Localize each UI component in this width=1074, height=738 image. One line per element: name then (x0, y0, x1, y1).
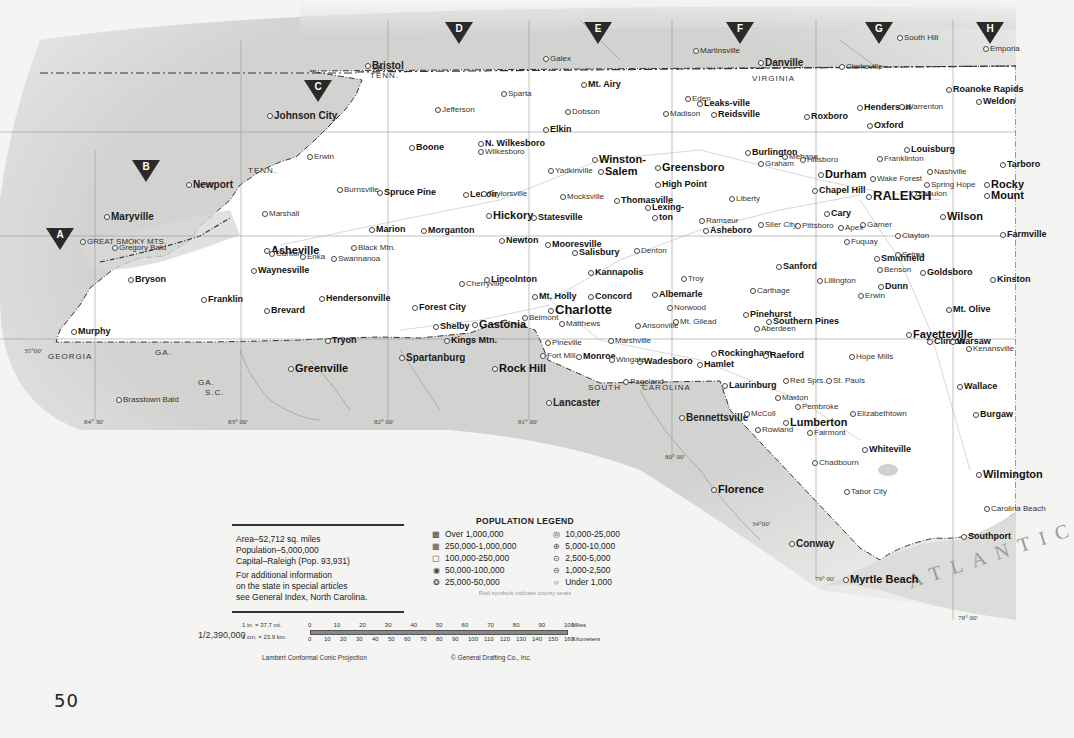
city-label: Pembroke (795, 403, 838, 411)
population-symbol-icon: ◉ (430, 565, 442, 576)
population-symbol-icon: ○ (550, 577, 562, 588)
city-label: Lillington (817, 277, 856, 285)
city-label: Goldsboro (920, 268, 973, 276)
city-dot-icon (745, 150, 751, 156)
legend-row: ▢100,000-250,000 (430, 553, 516, 564)
legend-label: Over 1,000,000 (445, 529, 504, 540)
city-label: Elkin (543, 125, 572, 133)
city-name: Franklin (208, 294, 243, 304)
city-dot-icon (540, 353, 546, 359)
city-label: Kenansville (966, 345, 1014, 353)
city-dot-icon (201, 297, 207, 303)
city-label: Conway (789, 540, 834, 548)
city-name: Jefferson (442, 105, 475, 114)
kilometer-tick: 50 (388, 636, 395, 642)
legend-label: 2,500-5,000 (565, 553, 610, 564)
grid-marker-label: G (873, 23, 885, 34)
city-label: Reidsville (711, 110, 760, 118)
legend-title: POPULATION LEGEND (430, 516, 620, 526)
city-dot-icon (920, 270, 926, 276)
city-dot-icon (976, 472, 982, 478)
city-dot-icon (826, 378, 832, 384)
city-label: Cary (824, 209, 851, 217)
city-name: Warrenton (906, 102, 943, 111)
city-name: Rowland (762, 425, 793, 434)
city-label: Salem (598, 167, 637, 175)
city-dot-icon (546, 400, 552, 406)
city-label: Martinsville (693, 47, 740, 55)
city-label: Troy (681, 275, 704, 283)
city-name: Sparta (508, 89, 532, 98)
city-label: Pinehurst (743, 310, 792, 318)
city-dot-icon (744, 411, 750, 417)
city-dot-icon (911, 191, 917, 197)
city-label: Cherryville (459, 280, 504, 288)
city-dot-icon (655, 165, 661, 171)
city-name: Danville (765, 57, 803, 68)
legend-label: 1,000-2,500 (565, 565, 610, 576)
city-dot-icon (543, 127, 549, 133)
city-name: Brasstown Bald (123, 395, 179, 404)
city-name: Madison (670, 109, 700, 118)
city-name: Mooresville (552, 239, 602, 249)
city-label: Kings Mtn. (444, 336, 497, 344)
city-dot-icon (754, 326, 760, 332)
city-label: Raeford (763, 351, 804, 359)
city-dot-icon (844, 489, 850, 495)
city-label: Gastonia (472, 320, 526, 328)
city-dot-icon (895, 233, 901, 239)
info-capital: Capital–Raleigh (Pop. 93,931) (236, 556, 400, 567)
state-label: S.C. (205, 388, 225, 397)
city-label: Galex (543, 55, 571, 63)
city-dot-icon (984, 193, 990, 199)
city-dot-icon (264, 308, 270, 314)
city-name: Erwin (865, 291, 885, 300)
city-label: Forest City (412, 303, 466, 311)
city-dot-icon (693, 48, 699, 54)
miles-tick: 10 (334, 622, 341, 628)
miles-tick: 20 (359, 622, 366, 628)
city-label: Boone (409, 143, 444, 151)
city-label: Mocksville (560, 193, 604, 201)
city-name: Tabor City (851, 487, 887, 496)
city-name: Laurinburg (729, 380, 777, 390)
city-dot-icon (906, 332, 912, 338)
legend-right-column: ◎10,000-25,000⊕5,000-10,000⊙2,500-5,000⊖… (550, 529, 620, 588)
city-dot-icon (1000, 232, 1006, 238)
city-label: Pittsboro (795, 222, 834, 230)
city-label: Waynesville (251, 266, 309, 274)
city-label: Brasstown Bald (116, 396, 179, 404)
city-label: Franklinton (877, 155, 924, 163)
city-name: Tryon (332, 335, 357, 345)
city-label: Benson (877, 266, 911, 274)
city-label: Red Sprs. (783, 377, 826, 385)
city-dot-icon (319, 296, 325, 302)
city-dot-icon (433, 324, 439, 330)
population-symbol-icon: ⊖ (550, 565, 562, 576)
city-label: Roanoke Rapids (946, 85, 1024, 93)
city-label: Mt. Gilead (673, 318, 716, 326)
kilometers-unit: Kilometers (572, 636, 600, 642)
city-name: Maxton (782, 393, 808, 402)
legend-label: 250,000-1,000,000 (445, 541, 516, 552)
info-more-3: see General Index, North Carolina. (236, 592, 400, 603)
city-name: Norwood (674, 303, 706, 312)
city-dot-icon (818, 172, 824, 178)
city-dot-icon (983, 46, 989, 52)
city-label: Tabor City (844, 488, 887, 496)
city-name: Lumberton (790, 416, 847, 428)
city-label: Mt. Olive (946, 305, 991, 313)
city-name: Emporia (990, 44, 1020, 53)
city-dot-icon (795, 223, 801, 229)
city-label: Brevard (264, 306, 305, 314)
city-name: Taylorsville (488, 189, 527, 198)
city-dot-icon (711, 112, 717, 118)
city-dot-icon (399, 355, 405, 361)
city-dot-icon (984, 182, 990, 188)
city-label: Chadbourn (812, 459, 859, 467)
city-label: Statesville (531, 213, 583, 221)
city-dot-icon (758, 222, 764, 228)
city-dot-icon (940, 214, 946, 220)
city-name: Concord (595, 291, 632, 301)
city-dot-icon (755, 427, 761, 433)
